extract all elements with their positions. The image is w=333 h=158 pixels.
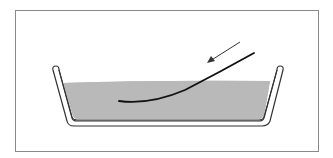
direction-arrow-icon (207, 42, 240, 63)
diagram-canvas (0, 0, 333, 158)
liquid-surface (63, 81, 270, 119)
